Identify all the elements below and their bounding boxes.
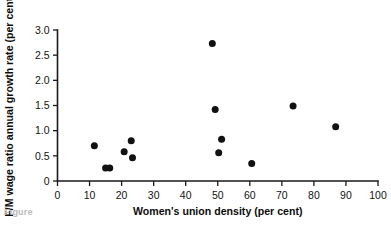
y-tick-label: 1.0 [35, 124, 50, 136]
y-tick-label: 0.5 [35, 150, 50, 162]
caption-fragment: Figure [4, 207, 84, 218]
y-tick-label: 2.5 [35, 49, 50, 61]
data-point [212, 106, 219, 113]
x-tick-label: 80 [308, 189, 320, 201]
data-point [128, 137, 135, 144]
scatter-plot-canvas: 00.51.01.52.02.53.0010203040506070809010… [0, 0, 391, 225]
x-axis-title: Women's union density (per cent) [133, 205, 302, 217]
x-tick-label: 100 [369, 189, 387, 201]
x-tick-label: 0 [55, 189, 61, 201]
y-tick-label: 0 [44, 175, 50, 187]
data-point [215, 149, 222, 156]
x-tick-label: 30 [148, 189, 160, 201]
x-tick-label: 40 [180, 189, 192, 201]
data-point [91, 142, 98, 149]
data-point [218, 136, 225, 143]
x-tick-label: 70 [276, 189, 288, 201]
x-tick-label: 20 [116, 189, 128, 201]
data-point [129, 154, 136, 161]
data-point [290, 103, 297, 110]
data-point [332, 123, 339, 130]
y-tick-label: 3.0 [35, 24, 50, 36]
y-axis-title: F/M wage ratio annual growth rate (per c… [3, 0, 15, 217]
data-point [209, 40, 216, 47]
y-tick-label: 2.0 [35, 74, 50, 86]
scatter-chart-figure: 00.51.01.52.02.53.0010203040506070809010… [0, 0, 391, 225]
x-tick-label: 60 [244, 189, 256, 201]
x-tick-label: 10 [84, 189, 96, 201]
axis-spines [58, 30, 379, 181]
data-point [121, 148, 128, 155]
data-point [106, 164, 113, 171]
y-tick-label: 1.5 [35, 99, 50, 111]
x-tick-label: 90 [340, 189, 352, 201]
data-point [248, 160, 255, 167]
x-tick-label: 50 [212, 189, 224, 201]
